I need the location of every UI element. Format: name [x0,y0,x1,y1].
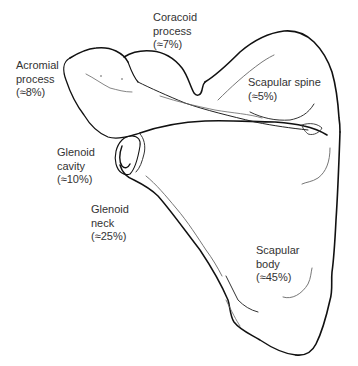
label-text: Glenoid [57,146,95,160]
neck-detail-line [146,176,222,276]
acromion-dot-1 [100,75,102,77]
label-acromial-process: Acromial process (≈8%) [16,59,59,100]
acromion-top-outline [70,48,128,62]
label-text: Coracoid [153,11,197,25]
label-text: Scapular spine [248,76,321,90]
label-percent: (≈5%) [248,90,321,104]
acromion-outline [64,58,140,138]
medial-border [296,132,340,355]
glenoid-right-edge [136,134,145,172]
scapula-diagram: Coracoid process (≈7%) Acromial process … [0,0,358,366]
label-percent: (≈45%) [256,271,299,285]
label-glenoid-cavity: Glenoid cavity (≈10%) [57,146,95,187]
label-text: body [256,258,299,272]
body-medial-detail [302,148,330,184]
spine-upper-line [140,121,327,135]
lateral-pillar-line [226,300,240,326]
spine-ridge-line [250,104,314,120]
label-text: Scapular [256,244,299,258]
label-percent: (≈10%) [57,173,95,187]
acromion-dot-2 [121,78,123,80]
acromion-surface-line [86,74,132,92]
acromion-right-edge [128,62,138,82]
label-coracoid-process: Coracoid process (≈7%) [153,11,197,52]
label-scapular-spine: Scapular spine (≈5%) [248,76,321,103]
label-text: Acromial [16,59,59,73]
label-percent: (≈8%) [16,86,59,100]
label-text: cavity [57,160,95,174]
spine-end-tip [302,124,322,135]
label-text: Glenoid [91,203,129,217]
label-percent: (≈25%) [91,230,129,244]
label-text: process [16,73,59,87]
glenoid-cavity-rim [115,136,140,175]
label-percent: (≈7%) [153,38,197,52]
glenoid-inner-curve [120,146,130,168]
body-detail-line-1 [226,276,258,312]
label-text: neck [91,217,129,231]
label-glenoid-neck: Glenoid neck (≈25%) [91,203,129,244]
label-scapular-body: Scapular body (≈45%) [256,244,299,285]
label-text: process [153,25,197,39]
coracoid-outline [124,51,205,95]
scapula-outline-illustration [0,0,358,366]
